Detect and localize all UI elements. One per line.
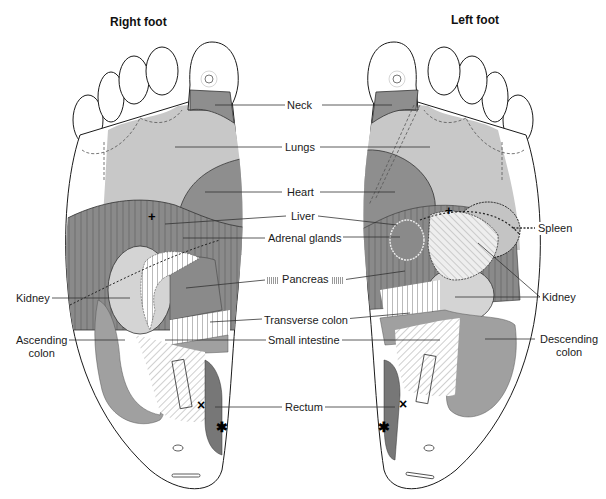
label-neck: Neck [285, 99, 314, 112]
pancreas-pattern-icon [267, 277, 279, 284]
left-small-intestine-zone [395, 318, 460, 396]
label-rectum: Rectum [283, 401, 325, 414]
left-foot-title: Left foot [451, 13, 499, 27]
label-ascending-colon: Ascending colon [14, 334, 69, 360]
right-second-toe [146, 47, 178, 95]
label-lungs: Lungs [283, 141, 317, 154]
label-spleen: Spleen [536, 222, 574, 235]
left-second-toe [428, 47, 460, 95]
label-kidney-left-foot: Kidney [540, 291, 578, 304]
right-foot: × ✱ + [60, 42, 250, 489]
right-asterisk-marker: ✱ [216, 419, 228, 435]
label-transverse-colon: Transverse colon [262, 314, 350, 327]
left-third-toe [457, 56, 487, 104]
label-small-intestine: Small intestine [266, 334, 342, 347]
left-asterisk-marker: ✱ [378, 419, 390, 435]
label-heart: Heart [285, 186, 316, 199]
label-adrenal-glands: Adrenal glands [266, 232, 343, 245]
label-ascending-line2: colon [16, 347, 67, 360]
pancreas-pattern-icon [332, 277, 344, 284]
right-plus-marker: + [148, 209, 156, 224]
label-pancreas: Pancreas [265, 273, 346, 286]
label-pancreas-text: Pancreas [282, 273, 328, 285]
label-liver: Liver [289, 210, 317, 223]
label-descending-line1: Descending [540, 333, 598, 346]
label-kidney-right-foot: Kidney [14, 292, 52, 305]
left-foot: × ✱ + [360, 42, 540, 489]
label-ascending-line1: Ascending [16, 334, 67, 347]
right-third-toe [119, 56, 149, 104]
right-foot-title: Right foot [110, 15, 167, 29]
label-descending-colon: Descending colon [538, 333, 600, 359]
label-descending-line2: colon [540, 346, 598, 359]
left-adrenal-zone [390, 220, 424, 260]
left-cross-marker: × [399, 396, 407, 412]
left-plus-marker: + [445, 203, 453, 218]
right-cross-marker: × [197, 397, 205, 413]
foot-reflexology-diagram: × ✱ + × ✱ [0, 0, 606, 499]
